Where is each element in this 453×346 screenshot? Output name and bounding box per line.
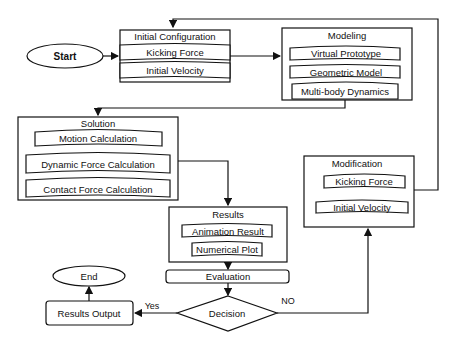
results-title: Results bbox=[212, 209, 244, 220]
modeling-item-virtual-prototype: Virtual Prototype bbox=[311, 48, 381, 59]
no-label: NO bbox=[281, 296, 295, 306]
modification-item-kicking-force: Kicking Force bbox=[335, 176, 393, 187]
config-item-initial-velocity: Initial Velocity bbox=[146, 65, 204, 76]
solution-item-motion: Motion Calculation bbox=[59, 133, 137, 144]
modeling-box: Modeling Virtual Prototype Geometric Mod… bbox=[282, 28, 412, 100]
solution-item-dynamic-force: Dynamic Force Calculation bbox=[41, 159, 155, 170]
solution-item-contact-force: Contact Force Calculation bbox=[43, 184, 152, 195]
solution-box: Solution Motion Calculation Dynamic Forc… bbox=[18, 117, 178, 200]
flowchart: Start Initial Configuration Kicking Forc… bbox=[0, 0, 453, 346]
modification-item-initial-velocity: Initial Velocity bbox=[333, 202, 391, 213]
decision-label: Decision bbox=[209, 308, 245, 319]
results-output-label: Results Output bbox=[58, 308, 121, 319]
config-item-kicking-force: Kicking Force bbox=[146, 47, 204, 58]
end-label: End bbox=[81, 271, 98, 282]
decision-diamond: Decision bbox=[177, 296, 277, 331]
modeling-to-solution-arrow bbox=[98, 100, 345, 115]
results-item-animation: Animation Result bbox=[192, 226, 264, 237]
modeling-item-geometric-model: Geometric Model bbox=[310, 67, 382, 78]
results-output-box: Results Output bbox=[46, 301, 133, 325]
results-box: Results Animation Result Numerical Plot bbox=[169, 207, 287, 262]
yes-label: Yes bbox=[145, 301, 160, 311]
initial-configuration-box: Initial Configuration Kicking Force Init… bbox=[120, 30, 230, 82]
start-label: Start bbox=[54, 51, 77, 62]
results-item-numerical-plot: Numerical Plot bbox=[196, 244, 258, 255]
solution-title: Solution bbox=[81, 118, 115, 129]
evaluation-box: Evaluation bbox=[166, 270, 289, 283]
initial-configuration-title: Initial Configuration bbox=[134, 31, 215, 42]
end-node: End bbox=[53, 266, 125, 286]
start-node: Start bbox=[27, 44, 103, 68]
solution-to-results-arrow bbox=[178, 161, 228, 205]
modeling-item-multibody-dynamics: Multi-body Dynamics bbox=[301, 86, 389, 97]
modeling-title: Modeling bbox=[328, 30, 367, 41]
evaluation-label: Evaluation bbox=[206, 271, 250, 282]
modification-box: Modification Kicking Force Initial Veloc… bbox=[304, 156, 414, 227]
modification-title: Modification bbox=[332, 158, 383, 169]
